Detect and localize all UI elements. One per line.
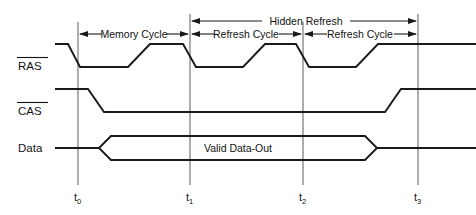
signal-label-ras: RAS	[18, 60, 42, 72]
span-hidden-refresh: Hidden Refresh	[191, 15, 417, 27]
waveform-ras	[55, 44, 476, 67]
signal-row-cas: CAS	[17, 89, 476, 117]
time-marker-label-t3: t3	[414, 191, 421, 206]
time-marker-label-t0: t0	[74, 191, 81, 206]
signal-row-data: Data Valid Data-Out	[18, 136, 476, 160]
span-label-hidden-refresh: Hidden Refresh	[270, 15, 343, 27]
waveform-cas	[55, 89, 476, 112]
time-marker-label-t2: t2	[299, 191, 306, 206]
refresh-cycle-2-arrowhead-left	[304, 31, 313, 37]
hidden-refresh-arrowhead-left	[191, 18, 200, 24]
memory-cycle-arrowhead-left	[79, 31, 88, 37]
span-label-refresh-cycle-1: Refresh Cycle	[213, 28, 279, 40]
hidden-refresh-arrowhead-right	[408, 18, 417, 24]
span-refresh-cycle-1: Refresh Cycle	[191, 28, 302, 40]
signal-label-data: Data	[18, 142, 43, 154]
data-envelope-label: Valid Data-Out	[204, 142, 272, 154]
timing-diagram-figure: Hidden Refresh Memory Cycle Refresh Cycl…	[0, 0, 476, 215]
time-marker-labels: t0 t1 t2 t3	[74, 191, 421, 206]
signal-row-ras: RAS	[17, 44, 476, 72]
span-refresh-cycle-2: Refresh Cycle	[304, 28, 417, 40]
span-memory-cycle: Memory Cycle	[79, 28, 189, 40]
span-label-refresh-cycle-2: Refresh Cycle	[327, 28, 393, 40]
refresh-cycle-1-arrowhead-left	[191, 31, 200, 37]
time-marker-label-t1: t1	[186, 191, 193, 206]
memory-cycle-arrowhead-right	[180, 31, 189, 37]
signal-label-cas: CAS	[18, 105, 42, 117]
refresh-cycle-2-arrowhead-right	[408, 31, 417, 37]
span-label-memory-cycle: Memory Cycle	[100, 28, 167, 40]
refresh-cycle-1-arrowhead-right	[293, 31, 302, 37]
timing-diagram-canvas: Hidden Refresh Memory Cycle Refresh Cycl…	[0, 0, 476, 215]
